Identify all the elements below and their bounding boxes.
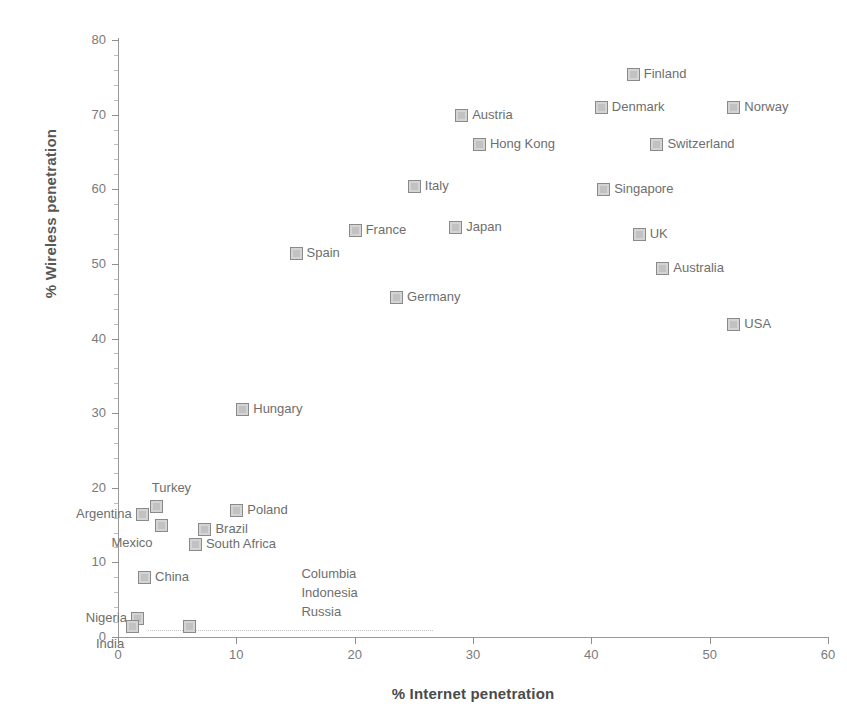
data-point-usa[interactable]: [727, 318, 740, 331]
y-tick-label-60: 60: [64, 181, 106, 196]
x-tick-label-30: 30: [453, 647, 493, 662]
y-tick-minor: [114, 219, 118, 220]
y-tick-80: [112, 40, 119, 41]
data-point-label-turkey: Turkey: [152, 480, 191, 495]
y-tick-minor: [114, 503, 118, 504]
data-point-south-africa[interactable]: [189, 538, 202, 551]
data-point-uk[interactable]: [633, 228, 646, 241]
data-point-label-poland: Poland: [247, 502, 287, 517]
x-tick-40: [591, 637, 592, 644]
y-tick-minor: [114, 398, 118, 399]
x-tick-label-20: 20: [335, 647, 375, 662]
data-point-label-uk: UK: [650, 226, 668, 241]
y-tick-minor: [114, 204, 118, 205]
y-tick-minor: [114, 249, 118, 250]
data-point-austria[interactable]: [455, 109, 468, 122]
y-tick-minor: [114, 234, 118, 235]
data-point-mexico[interactable]: [155, 519, 168, 532]
data-point-australia[interactable]: [656, 262, 669, 275]
data-point-turkey[interactable]: [150, 500, 163, 513]
y-tick-minor: [114, 70, 118, 71]
data-point-denmark[interactable]: [595, 101, 608, 114]
data-point-italy[interactable]: [408, 180, 421, 193]
data-point-label-hong-kong: Hong Kong: [490, 136, 555, 151]
data-point-label-singapore: Singapore: [614, 181, 673, 196]
data-point-hong-kong[interactable]: [473, 138, 486, 151]
data-point-label-finland: Finland: [644, 66, 687, 81]
data-point-spain[interactable]: [290, 247, 303, 260]
data-point-germany[interactable]: [390, 291, 403, 304]
data-point-japan[interactable]: [449, 221, 462, 234]
x-tick-label-50: 50: [690, 647, 730, 662]
y-tick-label-80: 80: [64, 32, 106, 47]
annotation-line-russia: Russia: [301, 602, 357, 621]
y-tick-label-10: 10: [64, 554, 106, 569]
y-tick-20: [112, 488, 119, 489]
y-tick-70: [112, 115, 119, 116]
x-tick-label-40: 40: [571, 647, 611, 662]
y-tick-minor: [114, 309, 118, 310]
y-tick-minor: [114, 130, 118, 131]
y-tick-minor: [114, 159, 118, 160]
data-point-argentina[interactable]: [136, 508, 149, 521]
x-tick-20: [355, 637, 356, 644]
data-point-hungary[interactable]: [236, 403, 249, 416]
y-tick-40: [112, 339, 119, 340]
text-annotation-block: ColumbiaIndonesiaRussia: [301, 564, 357, 621]
y-tick-minor: [114, 577, 118, 578]
data-point-switzerland[interactable]: [650, 138, 663, 151]
x-tick-10: [236, 637, 237, 644]
data-point-norway[interactable]: [727, 101, 740, 114]
y-tick-30: [112, 413, 119, 414]
y-tick-minor: [114, 85, 118, 86]
data-point-label-france: France: [366, 222, 406, 237]
data-point-poland[interactable]: [230, 504, 243, 517]
y-tick-minor: [114, 533, 118, 534]
y-tick-label-50: 50: [64, 256, 106, 271]
data-point-india[interactable]: [126, 620, 139, 633]
y-tick-50: [112, 264, 119, 265]
data-point-brazil[interactable]: [198, 523, 211, 536]
data-point-finland[interactable]: [627, 68, 640, 81]
y-tick-minor: [114, 100, 118, 101]
y-tick-minor: [114, 443, 118, 444]
data-point[interactable]: [183, 620, 196, 633]
y-tick-minor: [114, 144, 118, 145]
y-tick-10: [112, 562, 119, 563]
y-tick-minor: [114, 294, 118, 295]
data-point-label-australia: Australia: [673, 260, 724, 275]
y-tick-label-70: 70: [64, 107, 106, 122]
data-point-label-south-africa: South Africa: [206, 536, 276, 551]
data-point-singapore[interactable]: [597, 183, 610, 196]
y-tick-minor: [114, 607, 118, 608]
data-point-label-usa: USA: [744, 316, 771, 331]
data-point-china[interactable]: [138, 571, 151, 584]
y-tick-minor: [114, 174, 118, 175]
data-point-france[interactable]: [349, 224, 362, 237]
y-tick-minor: [114, 55, 118, 56]
y-tick-minor: [114, 324, 118, 325]
y-tick-label-30: 30: [64, 405, 106, 420]
y-tick-minor: [114, 428, 118, 429]
data-point-label-mexico: Mexico: [111, 535, 152, 550]
data-point-label-austria: Austria: [472, 107, 512, 122]
data-point-label-italy: Italy: [425, 178, 449, 193]
y-tick-minor: [114, 279, 118, 280]
y-tick-60: [112, 189, 119, 190]
data-point-label-nigeria: Nigeria: [86, 610, 127, 625]
annotation-line-columbia: Columbia: [301, 564, 357, 583]
data-point-label-switzerland: Switzerland: [667, 136, 734, 151]
data-point-label-hungary: Hungary: [253, 401, 302, 416]
y-tick-minor: [114, 353, 118, 354]
data-point-label-germany: Germany: [407, 289, 460, 304]
x-tick-label-60: 60: [808, 647, 847, 662]
x-tick-30: [473, 637, 474, 644]
data-point-label-denmark: Denmark: [612, 99, 665, 114]
data-point-label-norway: Norway: [744, 99, 788, 114]
x-tick-50: [710, 637, 711, 644]
y-tick-label-40: 40: [64, 331, 106, 346]
y-tick-label-20: 20: [64, 480, 106, 495]
x-tick-label-10: 10: [216, 647, 256, 662]
y-tick-minor: [114, 368, 118, 369]
data-point-label-brazil: Brazil: [215, 521, 248, 536]
